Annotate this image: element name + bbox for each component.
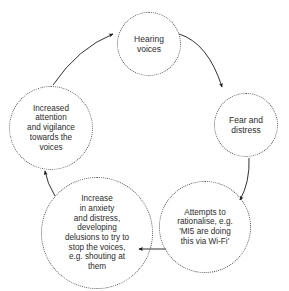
node-increase-in-anxiety-and-distress[interactable]: Increase in anxiety and distress, develo… bbox=[41, 177, 153, 289]
node-increase-in-anxiety-and-distress-label: Increase in anxiety and distress, develo… bbox=[63, 194, 131, 271]
arrow-hearing-to-fear bbox=[179, 34, 222, 87]
arrow-fear-to-attempts bbox=[240, 158, 249, 200]
node-attempts-to-rationalise-label: Attempts to rationalise, e.g. 'MI5 are d… bbox=[175, 208, 235, 247]
node-fear-and-distress[interactable]: Fear and distress bbox=[214, 93, 278, 157]
node-hearing-voices-label: Hearing voices bbox=[132, 34, 166, 54]
cycle-diagram: Hearing voices Fear and distress Attempt… bbox=[0, 0, 289, 291]
node-hearing-voices[interactable]: Hearing voices bbox=[117, 12, 181, 76]
node-fear-and-distress-label: Fear and distress bbox=[227, 115, 265, 135]
node-attempts-to-rationalise[interactable]: Attempts to rationalise, e.g. 'MI5 are d… bbox=[159, 181, 251, 273]
node-increased-attention-and-vigilance[interactable]: Increased attention and vigilance toward… bbox=[9, 86, 93, 170]
arrow-increase-to-attention bbox=[45, 171, 55, 196]
node-increased-attention-and-vigilance-label: Increased attention and vigilance toward… bbox=[25, 104, 77, 152]
arrow-attention-to-hearing bbox=[53, 34, 113, 85]
